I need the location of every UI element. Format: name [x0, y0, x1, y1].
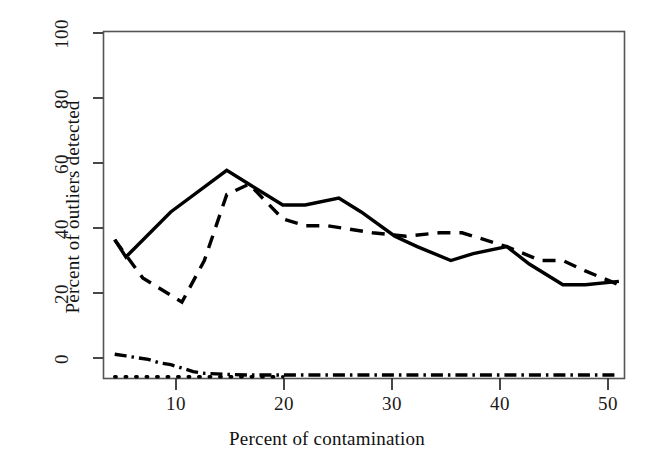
xtick-label-20: 20: [264, 393, 304, 415]
series-solid-line: [115, 170, 619, 285]
xtick-label-10: 10: [156, 393, 196, 415]
chart-figure: 0 20 40 60 80 100 10 20 30 40 50 Percent…: [0, 0, 654, 471]
xtick-label-50: 50: [588, 393, 628, 415]
series-dashed-line: [115, 184, 619, 302]
xtick-label-40: 40: [480, 393, 520, 415]
xtick-label-30: 30: [372, 393, 412, 415]
y-axis-ticks: [93, 33, 103, 358]
y-axis-title: Percent of outliers detected: [62, 42, 84, 372]
plot-canvas: [0, 0, 654, 471]
x-axis-ticks: [176, 378, 608, 390]
x-axis-title: Percent of contamination: [0, 428, 654, 450]
data-series-layer: [115, 170, 619, 376]
series-dash-dot-line: [115, 354, 619, 375]
